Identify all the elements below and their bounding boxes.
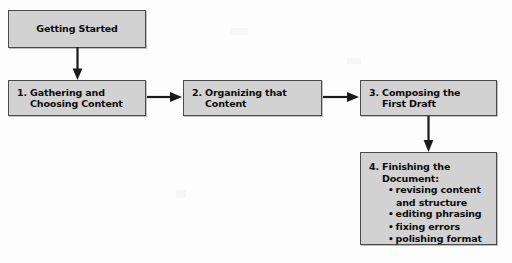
node-step3-line2: First Draft [369, 98, 492, 110]
node-step1-line1: 1. Gathering and [17, 87, 141, 99]
list-item-label: polishing format [396, 233, 482, 244]
node-getting-started-label: Getting Started [36, 23, 117, 35]
scan-artifact [347, 58, 361, 64]
bullet-icon: • [388, 222, 396, 232]
node-step1-line2: Choosing Content [17, 98, 141, 110]
node-step4-bullet-list: •revising content and structure •editing… [369, 184, 490, 246]
node-step1[interactable]: 1. Gathering and Choosing Content [8, 80, 146, 116]
bullet-icon: • [388, 185, 396, 195]
node-step2-line2: Content [192, 98, 317, 110]
node-step2[interactable]: 2. Organizing that Content [183, 80, 322, 116]
scan-artifact [176, 190, 186, 198]
node-step2-inner: 2. Organizing that Content [184, 81, 321, 115]
node-getting-started[interactable]: Getting Started [8, 10, 146, 48]
node-step3[interactable]: 3. Composing the First Draft [360, 80, 497, 116]
connector-getting-started-to-step1 [70, 47, 86, 81]
connector-step1-to-step2 [147, 89, 183, 105]
connector-step3-to-step4 [421, 116, 437, 153]
list-item: •polishing format [388, 233, 490, 246]
node-getting-started-inner: Getting Started [9, 11, 145, 47]
node-step4[interactable]: 4. Finishing the Document: •revising con… [360, 152, 497, 245]
node-step2-line1: 2. Organizing that [192, 87, 317, 99]
bullet-icon: • [388, 209, 396, 219]
list-item: •fixing errors [388, 221, 490, 234]
flowchart-diagram: Getting Started 1. Gathering and Choosin… [0, 0, 512, 263]
list-item: •editing phrasing [388, 208, 490, 221]
bullet-icon: • [388, 234, 396, 244]
list-item-label: revising content and structure [396, 184, 481, 208]
node-step3-line1: 3. Composing the [369, 87, 492, 99]
list-item: •revising content and structure [388, 184, 490, 208]
node-step4-line1: 4. Finishing the [369, 161, 490, 173]
node-step1-inner: 1. Gathering and Choosing Content [9, 81, 145, 115]
list-item-label: fixing errors [396, 221, 460, 232]
connector-step2-to-step3 [323, 89, 360, 105]
node-step4-line2: Document: [369, 173, 490, 185]
list-item-label: editing phrasing [396, 208, 482, 219]
scan-artifact [230, 28, 248, 35]
node-step4-inner: 4. Finishing the Document: •revising con… [361, 153, 496, 244]
node-step3-inner: 3. Composing the First Draft [361, 81, 496, 115]
